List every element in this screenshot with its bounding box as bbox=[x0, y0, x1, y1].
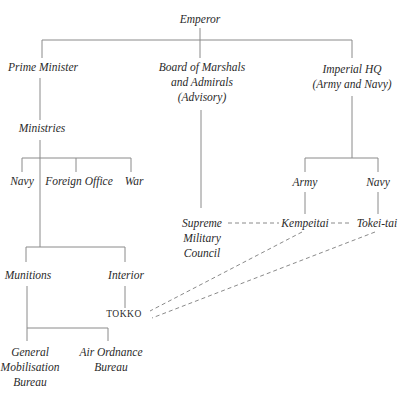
node-label: Emperor bbox=[180, 12, 220, 27]
node-label: Navy bbox=[10, 174, 34, 189]
node-label-line: Bureau bbox=[1, 375, 60, 390]
node-navy-ministry: Navy bbox=[10, 174, 34, 189]
node-label: War bbox=[125, 174, 144, 189]
node-board-of-marshals: Board of Marshals and Admirals (Advisory… bbox=[159, 60, 245, 105]
node-army: Army bbox=[293, 175, 318, 190]
node-label: Foreign Office bbox=[45, 174, 113, 189]
node-air-ordnance-bureau: Air Ordnance Bureau bbox=[79, 345, 142, 375]
node-label-line: Military bbox=[182, 231, 222, 246]
node-label-line: and Admirals bbox=[159, 75, 245, 90]
node-supreme-military-council: Supreme Military Council bbox=[182, 216, 222, 261]
node-label-line: (Army and Navy) bbox=[312, 77, 391, 92]
node-munitions: Munitions bbox=[5, 268, 52, 283]
node-label-line: (Advisory) bbox=[159, 90, 245, 105]
node-label: Navy bbox=[366, 175, 390, 190]
node-tokei-tai: Tokei-tai bbox=[357, 216, 397, 231]
node-label-line: Imperial HQ bbox=[312, 62, 391, 77]
node-label: TOKKO bbox=[106, 307, 142, 322]
node-label-line: General bbox=[1, 345, 60, 360]
node-foreign-office: Foreign Office bbox=[45, 174, 113, 189]
node-general-mobilisation-bureau: General Mobilisation Bureau bbox=[1, 345, 60, 390]
node-kempeitai: Kempeitai bbox=[281, 216, 328, 231]
node-label: Interior bbox=[108, 268, 144, 283]
node-label-line: Bureau bbox=[79, 360, 142, 375]
node-label-line: Council bbox=[182, 246, 222, 261]
node-label-line: Mobilisation bbox=[1, 360, 60, 375]
node-interior: Interior bbox=[108, 268, 144, 283]
node-label: Ministries bbox=[19, 121, 66, 136]
node-label-line: Supreme bbox=[182, 216, 222, 231]
node-label: Tokei-tai bbox=[357, 216, 397, 231]
node-label-line: Board of Marshals bbox=[159, 60, 245, 75]
node-war: War bbox=[125, 174, 144, 189]
node-label: Kempeitai bbox=[281, 216, 328, 231]
node-label: Munitions bbox=[5, 268, 52, 283]
node-navy-hq: Navy bbox=[366, 175, 390, 190]
node-emperor: Emperor bbox=[180, 12, 220, 27]
node-ministries: Ministries bbox=[19, 121, 66, 136]
node-tokko: TOKKO bbox=[106, 307, 142, 322]
node-prime-minister: Prime Minister bbox=[8, 60, 78, 75]
org-chart: Emperor Prime Minister Board of Marshals… bbox=[0, 0, 403, 399]
node-label: Army bbox=[293, 175, 318, 190]
node-imperial-hq: Imperial HQ (Army and Navy) bbox=[312, 62, 391, 92]
node-label: Prime Minister bbox=[8, 60, 78, 75]
node-label-line: Air Ordnance bbox=[79, 345, 142, 360]
